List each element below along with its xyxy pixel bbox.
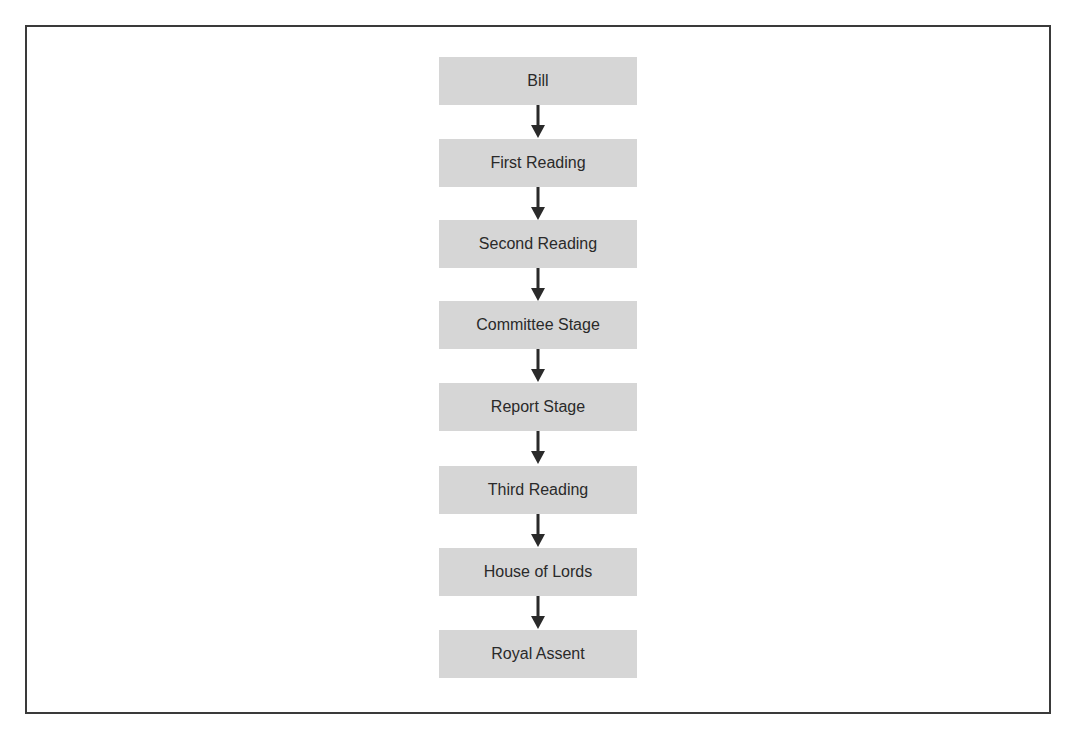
step-committee-stage: Committee Stage bbox=[439, 301, 637, 349]
step-label: Royal Assent bbox=[491, 645, 584, 663]
step-label: House of Lords bbox=[484, 563, 593, 581]
step-royal-assent: Royal Assent bbox=[439, 630, 637, 678]
step-label: First Reading bbox=[490, 154, 585, 172]
arrow-down-icon bbox=[529, 596, 547, 630]
step-third-reading: Third Reading bbox=[439, 466, 637, 514]
arrow-down-icon bbox=[529, 431, 547, 465]
step-house-of-lords: House of Lords bbox=[439, 548, 637, 596]
step-bill: Bill bbox=[439, 57, 637, 105]
arrow-down-icon bbox=[529, 349, 547, 383]
step-label: Third Reading bbox=[488, 481, 589, 499]
step-label: Second Reading bbox=[479, 235, 597, 253]
step-label: Bill bbox=[527, 72, 548, 90]
step-label: Report Stage bbox=[491, 398, 585, 416]
step-label: Committee Stage bbox=[476, 316, 600, 334]
step-second-reading: Second Reading bbox=[439, 220, 637, 268]
step-first-reading: First Reading bbox=[439, 139, 637, 187]
arrow-down-icon bbox=[529, 514, 547, 548]
step-report-stage: Report Stage bbox=[439, 383, 637, 431]
arrow-down-icon bbox=[529, 105, 547, 139]
arrow-down-icon bbox=[529, 187, 547, 221]
arrow-down-icon bbox=[529, 268, 547, 302]
